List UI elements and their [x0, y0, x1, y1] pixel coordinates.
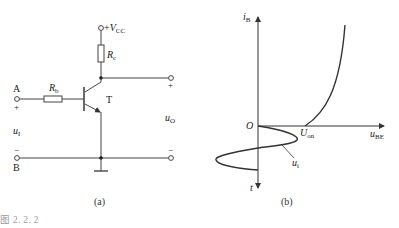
ib-axis-label: iB: [243, 12, 250, 24]
origin-label: O: [246, 121, 253, 131]
rb-label: Rb: [49, 83, 59, 95]
rc-label: Rc: [107, 50, 116, 62]
panel-a-circuit: [15, 26, 174, 171]
uon-label: Uon: [300, 128, 314, 140]
input-terminal-b: [15, 156, 20, 161]
transistor-label: T: [106, 95, 112, 105]
output-minus-sign: −: [168, 146, 173, 155]
vcc-terminal: [99, 26, 104, 31]
figure-caption: 图 2. 2. 2: [0, 216, 39, 226]
collector-lead: [85, 82, 101, 92]
input-terminal-a: [15, 97, 20, 102]
input-plus-sign: +: [14, 103, 19, 112]
output-plus-sign: +: [168, 81, 173, 90]
output-terminal-minus: [169, 156, 174, 161]
output-voltage-label: uO: [165, 113, 175, 125]
panel-a-caption: (a): [94, 197, 105, 207]
input-minus-sign: −: [14, 146, 19, 155]
panel-b-caption: (b): [281, 197, 293, 207]
vcc-label: +VCC: [104, 23, 125, 35]
t-axis-label: t: [250, 183, 253, 193]
ui-signal-label: ui: [292, 158, 299, 170]
input-voltage-label: uI: [13, 126, 20, 138]
terminal-b-label: B: [13, 163, 20, 173]
circuit-diagram-canvas: [0, 0, 399, 228]
ube-axis-label: uBE: [370, 129, 384, 141]
terminal-a-label: A: [13, 84, 20, 94]
emitter-lead: [85, 104, 100, 112]
collector-resistor: [98, 45, 104, 62]
base-resistor: [44, 96, 62, 102]
panel-b-graph: [216, 17, 384, 188]
input-characteristic-curve: [305, 25, 345, 126]
